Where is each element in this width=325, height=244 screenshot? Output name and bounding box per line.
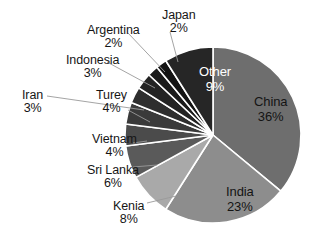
- slice-label-sri-lanka: Sri Lanka6%: [87, 164, 139, 191]
- slice-label-value: 4%: [92, 146, 137, 159]
- slice-label-value: 9%: [199, 80, 231, 95]
- slice-label-china: China36%: [254, 95, 287, 124]
- slice-label-name: India: [226, 185, 254, 200]
- slice-label-name: Japan: [162, 9, 196, 22]
- slice-label-other: Other9%: [199, 65, 231, 94]
- slice-label-name: China: [254, 95, 287, 110]
- slice-label-name: Iran: [22, 89, 43, 102]
- slice-label-vietnam: Vietnam4%: [92, 133, 137, 160]
- slice-label-name: Vietnam: [92, 133, 137, 146]
- pie-chart: China36%India23%Kenia8%Sri Lanka6%Vietna…: [0, 0, 325, 244]
- slice-label-japan: Japan2%: [162, 9, 196, 36]
- slice-label-name: Argentina: [87, 24, 140, 37]
- slice-label-kenia: Kenia8%: [113, 200, 144, 227]
- slice-label-value: 3%: [22, 102, 43, 115]
- slice-label-value: 36%: [254, 110, 287, 125]
- slice-label-name: Indonesia: [66, 54, 119, 67]
- slice-label-name: Sri Lanka: [87, 164, 139, 177]
- slice-label-value: 6%: [87, 177, 139, 190]
- slice-label-turey: Turey4%: [96, 89, 127, 116]
- slice-label-name: Kenia: [113, 200, 144, 213]
- slice-label-value: 8%: [113, 213, 144, 226]
- slice-label-name: Other: [199, 65, 231, 80]
- slice-label-name: Turey: [96, 89, 127, 102]
- slice-label-value: 4%: [96, 102, 127, 115]
- slice-label-value: 23%: [226, 200, 254, 215]
- slice-label-value: 3%: [66, 67, 119, 80]
- slice-label-value: 2%: [162, 22, 196, 35]
- slice-label-argentina: Argentina2%: [87, 24, 140, 51]
- slice-label-value: 2%: [87, 37, 140, 50]
- slice-label-iran: Iran3%: [22, 89, 43, 116]
- slice-label-india: India23%: [226, 185, 254, 214]
- slice-label-indonesia: Indonesia3%: [66, 54, 119, 81]
